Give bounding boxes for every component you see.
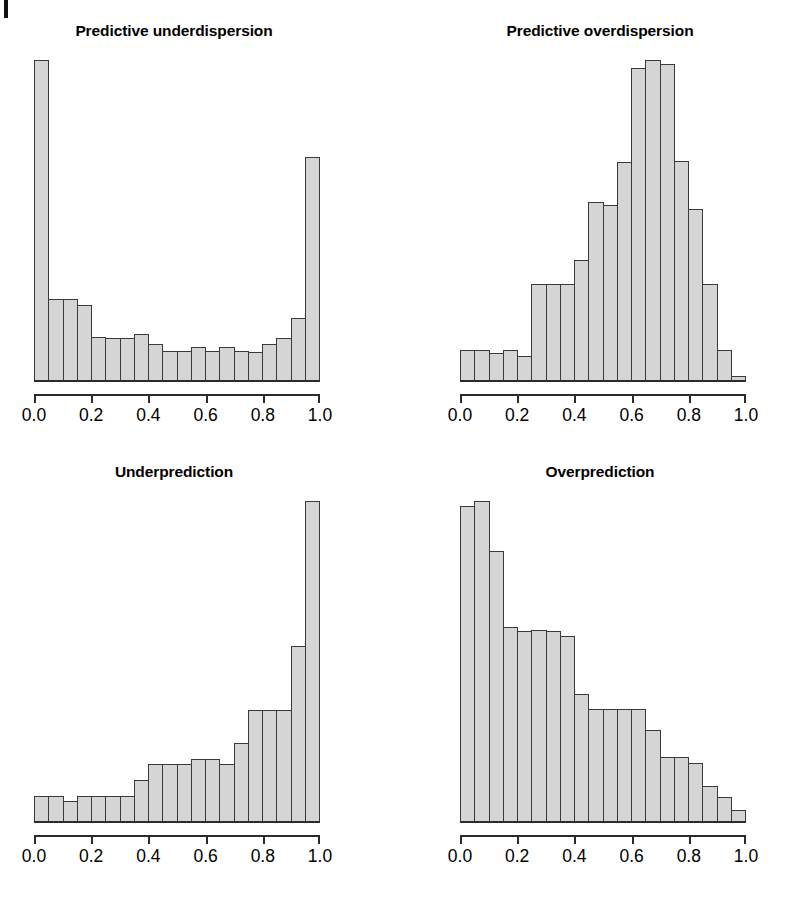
histogram-bar: [717, 350, 732, 382]
histogram-bar: [120, 796, 135, 823]
x-axis-tick-label: 0.2: [79, 846, 103, 867]
histogram-bar: [63, 299, 78, 382]
histogram-bar: [517, 356, 532, 382]
histogram-bar: [77, 305, 92, 382]
histogram-bar: [191, 759, 206, 823]
x-axis-tick-label: 0.8: [677, 405, 701, 426]
panel-title: Predictive overdispersion: [440, 22, 760, 40]
x-axis-tick-label: 0.4: [136, 405, 160, 426]
x-axis-tick: [148, 394, 150, 403]
histogram-bar: [262, 344, 277, 382]
x-axis-tick: [689, 835, 691, 844]
x-axis-tick: [744, 835, 746, 844]
x-axis-tick-label: 0.0: [448, 846, 472, 867]
histogram-bar: [91, 796, 106, 823]
x-axis-tick: [34, 394, 36, 403]
histogram-bar: [503, 350, 518, 382]
histogram-bar: [262, 710, 277, 823]
x-axis: 0.00.20.40.60.81.0: [34, 835, 320, 869]
histogram-bar: [588, 709, 603, 823]
x-axis-tick-label: 0.0: [448, 405, 472, 426]
histogram-bar: [574, 260, 589, 382]
panel-overprediction: Overprediction 0.00.20.40.60.81.0: [440, 463, 760, 873]
histogram-bar: [660, 757, 675, 823]
histogram-bar: [205, 759, 220, 823]
histogram-bar: [603, 205, 618, 382]
histogram-bar: [305, 157, 320, 382]
x-axis-tick-label: 0.8: [677, 846, 701, 867]
plot-area: [34, 60, 320, 382]
histogram-bar: [531, 284, 546, 382]
x-axis-tick: [574, 394, 576, 403]
x-axis-tick: [148, 835, 150, 844]
histogram-bar: [474, 501, 489, 823]
x-axis-tick-label: 0.4: [562, 846, 586, 867]
plot-area: [34, 501, 320, 823]
histogram-bar: [546, 631, 561, 823]
histogram-bar: [63, 801, 78, 823]
histogram-bar: [460, 350, 475, 382]
histogram-bar: [460, 506, 475, 823]
histogram-bar: [248, 352, 263, 382]
histogram-bars: [34, 60, 320, 382]
histogram-bar: [276, 338, 291, 382]
x-axis: 0.00.20.40.60.81.0: [460, 835, 746, 869]
histogram-bar: [574, 694, 589, 823]
x-axis-tick: [34, 835, 36, 844]
histogram-bar: [560, 636, 575, 823]
histogram-bar: [717, 797, 732, 823]
x-axis-tick-label: 0.6: [193, 405, 217, 426]
panel-title: Overprediction: [440, 463, 760, 481]
histogram-bar: [503, 627, 518, 823]
x-axis-tick-label: 0.2: [79, 405, 103, 426]
panel-title: Underprediction: [14, 463, 334, 481]
x-axis-tick-label: 0.0: [22, 846, 46, 867]
histogram-bar: [177, 764, 192, 823]
histogram-bars: [34, 501, 320, 823]
histogram-bar: [489, 551, 504, 823]
plot-baseline: [34, 380, 320, 382]
x-axis-tick: [460, 394, 462, 403]
x-axis-tick-label: 0.6: [619, 405, 643, 426]
plot-area: [460, 501, 746, 823]
histogram-bar: [219, 347, 234, 382]
histogram-bar: [617, 162, 632, 382]
histogram-bar: [148, 764, 163, 823]
histogram-bar: [162, 764, 177, 823]
x-axis-tick: [632, 394, 634, 403]
plot-baseline: [34, 821, 320, 823]
histogram-bar: [48, 796, 63, 823]
histogram-bar: [305, 501, 320, 823]
histogram-bar: [631, 68, 646, 382]
x-axis-tick: [91, 835, 93, 844]
histogram-bar: [617, 709, 632, 823]
x-axis-tick-label: 1.0: [308, 846, 332, 867]
histogram-bars: [460, 501, 746, 823]
histogram-bar: [205, 351, 220, 382]
histogram-bar: [645, 730, 660, 823]
histogram-bar: [702, 786, 717, 823]
plot-baseline: [460, 821, 746, 823]
histogram-bar: [546, 284, 561, 382]
histogram-bar: [702, 284, 717, 382]
plot-baseline: [460, 380, 746, 382]
histogram-bar: [474, 350, 489, 382]
x-axis-tick: [460, 835, 462, 844]
histogram-bar: [120, 338, 135, 382]
x-axis-tick: [744, 394, 746, 403]
histogram-bar: [77, 796, 92, 823]
x-axis-tick-label: 0.4: [562, 405, 586, 426]
histogram-bar: [148, 344, 163, 382]
histogram-bar: [134, 334, 149, 382]
panel-predictive-overdispersion: Predictive overdispersion 0.00.20.40.60.…: [440, 22, 760, 432]
histogram-bar: [162, 351, 177, 382]
x-axis-tick: [263, 835, 265, 844]
x-axis-tick-label: 0.8: [251, 405, 275, 426]
histogram-bar: [588, 202, 603, 382]
x-axis-line: [34, 394, 320, 396]
x-axis: 0.00.20.40.60.81.0: [34, 394, 320, 428]
x-axis-tick: [517, 835, 519, 844]
x-axis-tick: [206, 394, 208, 403]
histogram-bar: [560, 284, 575, 382]
x-axis-tick: [91, 394, 93, 403]
